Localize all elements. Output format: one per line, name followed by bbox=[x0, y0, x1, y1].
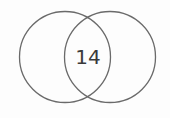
venn-diagram: 14 bbox=[0, 0, 170, 118]
intersection-label: 14 bbox=[75, 45, 100, 69]
